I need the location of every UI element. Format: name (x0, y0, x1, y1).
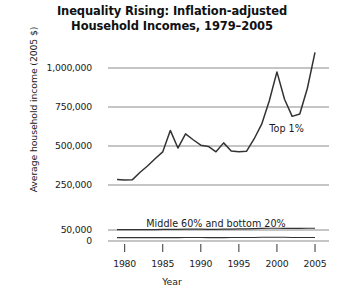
gridlines-lower-panel (108, 230, 329, 241)
annotation-top-1-percent: Top 1% (268, 123, 303, 134)
annotation-middle-bottom: Middle 60% and bottom 20% (146, 218, 285, 229)
series-line-top-1-percent (117, 52, 315, 180)
x-axis-ticks (125, 244, 315, 252)
chart-plot-area: Top 1% Middle 60% and bottom 20% (0, 0, 344, 299)
chart-figure: Inequality Rising: Inflation-adjusted Ho… (0, 0, 344, 299)
